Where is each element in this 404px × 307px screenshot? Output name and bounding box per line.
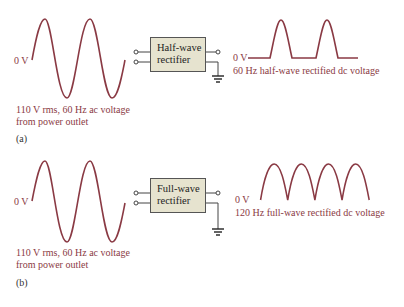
input-caption-line2-b: from power outlet [16,259,88,271]
half-wave-output-caption: 60 Hz half-wave rectified dc voltage [233,65,379,77]
output-terminals-a [205,50,220,76]
half-wave-rectifier-block: Half-wave rectifier [150,37,206,72]
full-wave-output-caption: 120 Hz full-wave rectified dc voltage [235,207,385,219]
output-zero-volt-label-a: 0 V [233,52,248,64]
input-caption-line1-a: 110 V rms, 60 Hz ac voltage [16,104,130,116]
full-wave-output-waveform [261,164,370,200]
panel-label-a: (a) [16,133,27,145]
input-caption-line2-a: from power outlet [16,116,88,128]
output-zero-volt-label-b: 0 V [235,194,250,206]
rectifier-block-title: Half-wave [157,42,205,54]
half-wave-output-waveform [248,20,358,58]
ground-icon-a [212,76,224,82]
rectifier-block-subtitle: rectifier [157,54,205,66]
ground-icon-b [212,229,224,235]
input-terminals-a [134,50,150,64]
panel-label-b: (b) [16,277,28,289]
input-ac-sine-wave-a [32,19,125,98]
full-wave-rectifier-block: Full-wave rectifier [150,178,206,213]
rectifier-block-title: Full-wave [157,183,205,195]
input-ac-sine-wave-b [32,161,125,242]
output-terminals-b [205,191,220,229]
input-zero-volt-label-a: 0 V [14,55,29,67]
input-terminals-b [134,191,150,205]
input-caption-line1-b: 110 V rms, 60 Hz ac voltage [16,247,130,259]
rectifier-block-subtitle: rectifier [157,195,205,207]
input-zero-volt-label-b: 0 V [14,196,29,208]
